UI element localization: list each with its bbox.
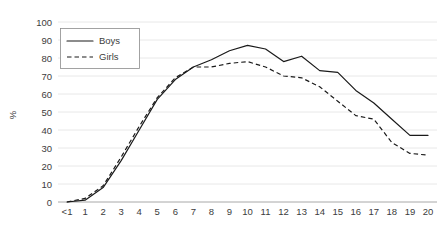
x-tick-label: 8 [209,206,214,217]
y-tick-label: 90 [41,35,52,46]
line-chart: 1009080706050403020100 <1123456789101112… [0,0,444,227]
x-tick-label: 9 [227,206,232,217]
x-tick-label: <1 [62,206,73,217]
y-tick-label: 20 [41,161,52,172]
y-axis-tick-labels: 1009080706050403020100 [36,17,52,208]
x-tick-label: 6 [173,206,178,217]
x-tick-label: 16 [350,206,361,217]
y-tick-label: 10 [41,179,52,190]
chart-canvas: 1009080706050403020100 <1123456789101112… [0,0,444,227]
y-tick-label: 70 [41,71,52,82]
x-tick-label: 20 [423,206,434,217]
x-tick-label: 1 [82,206,87,217]
series-line-girls [67,62,428,202]
x-tick-label: 2 [100,206,105,217]
y-tick-label: 40 [41,125,52,136]
x-tick-label: 17 [369,206,380,217]
x-axis-tick-labels: <11234567891011121314151617181920 [62,206,434,217]
x-tick-label: 18 [387,206,398,217]
y-tick-label: 100 [36,17,52,28]
chart-legend: Boys Girls [61,29,140,69]
x-tick-label: 5 [155,206,160,217]
legend-label-boys: Boys [99,35,120,46]
x-tick-label: 4 [137,206,142,217]
x-tick-label: 12 [278,206,289,217]
x-tick-label: 3 [119,206,124,217]
y-tick-label: 80 [41,53,52,64]
x-tick-label: 14 [314,206,325,217]
y-tick-label: 30 [41,143,52,154]
x-tick-label: 13 [296,206,307,217]
x-tick-label: 10 [242,206,253,217]
x-tick-label: 7 [191,206,196,217]
y-tick-label: 0 [47,197,52,208]
x-tick-label: 15 [332,206,343,217]
y-axis-title: % [7,110,18,119]
y-tick-label: 60 [41,89,52,100]
x-tick-label: 11 [261,206,271,217]
legend-label-girls: Girls [99,51,119,62]
x-tick-label: 19 [405,206,416,217]
y-tick-label: 50 [41,107,52,118]
